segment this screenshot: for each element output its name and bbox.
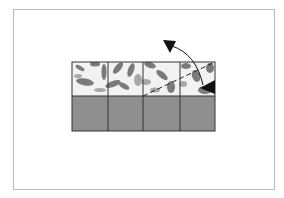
folding-diagram xyxy=(0,0,284,198)
